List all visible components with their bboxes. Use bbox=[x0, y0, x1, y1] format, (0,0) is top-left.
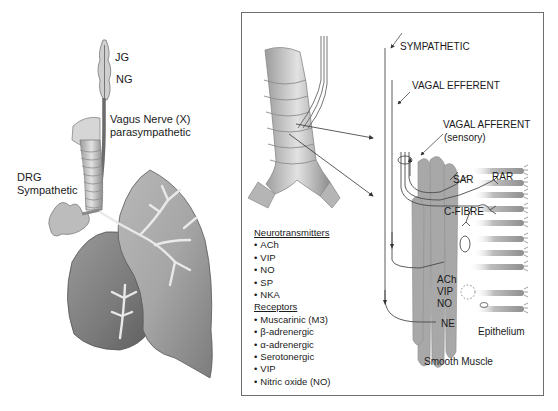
legend-item: Nitric oxide (NO) bbox=[254, 376, 331, 388]
parasympathetic-label: parasympathetic bbox=[110, 126, 191, 138]
jg-label: JG bbox=[115, 51, 129, 63]
vagus-nerve-label: Vagus Nerve (X) bbox=[110, 113, 191, 125]
receptors-list: Muscarinic (M3) β-adrenergic α-adrenergi… bbox=[254, 314, 331, 388]
legend-item: NKA bbox=[254, 289, 331, 301]
epithelium-label: Epithelium bbox=[478, 326, 525, 337]
legend-item: Serotonergic bbox=[254, 351, 331, 363]
ach-label: ACh bbox=[437, 274, 456, 285]
sympathetic-pathway-label: SYMPATHETIC bbox=[400, 41, 470, 52]
drg-label: DRG bbox=[17, 171, 41, 183]
legend-item: Muscarinic (M3) bbox=[254, 314, 331, 326]
smooth-muscle-label: Smooth Muscle bbox=[424, 356, 493, 367]
ng-label: NG bbox=[116, 73, 133, 85]
legend-item: β-adrenergic bbox=[254, 326, 331, 338]
receptors-header: Receptors bbox=[254, 301, 331, 313]
ne-label: NE bbox=[441, 318, 455, 329]
sar-label: SAR bbox=[453, 174, 474, 185]
c-fibre-label: C-FIBRE bbox=[444, 206, 484, 217]
vagal-afferent-label: VAGAL AFFERENT bbox=[443, 119, 530, 130]
neurotransmitters-header: Neurotransmitters bbox=[254, 227, 331, 239]
legend-item: VIP bbox=[254, 252, 331, 264]
neurotransmitters-list: ACh VIP NO SP NKA bbox=[254, 239, 331, 301]
no-label: NO bbox=[437, 298, 452, 309]
left-lung-figure bbox=[49, 40, 213, 378]
vagal-afferent-sensory-label: (sensory) bbox=[444, 132, 486, 143]
legend-item: α-adrenergic bbox=[254, 339, 331, 351]
legend-item: ACh bbox=[254, 239, 331, 251]
legend: Neurotransmitters ACh VIP NO SP NKA Rece… bbox=[254, 227, 331, 388]
vagal-efferent-label: VAGAL EFFERENT bbox=[412, 80, 500, 91]
sympathetic-label: Sympathetic bbox=[17, 184, 78, 196]
rar-label: RAR bbox=[492, 171, 513, 182]
vip-label: VIP bbox=[437, 286, 453, 297]
legend-item: SP bbox=[254, 277, 331, 289]
legend-item: VIP bbox=[254, 363, 331, 375]
legend-item: NO bbox=[254, 264, 331, 276]
